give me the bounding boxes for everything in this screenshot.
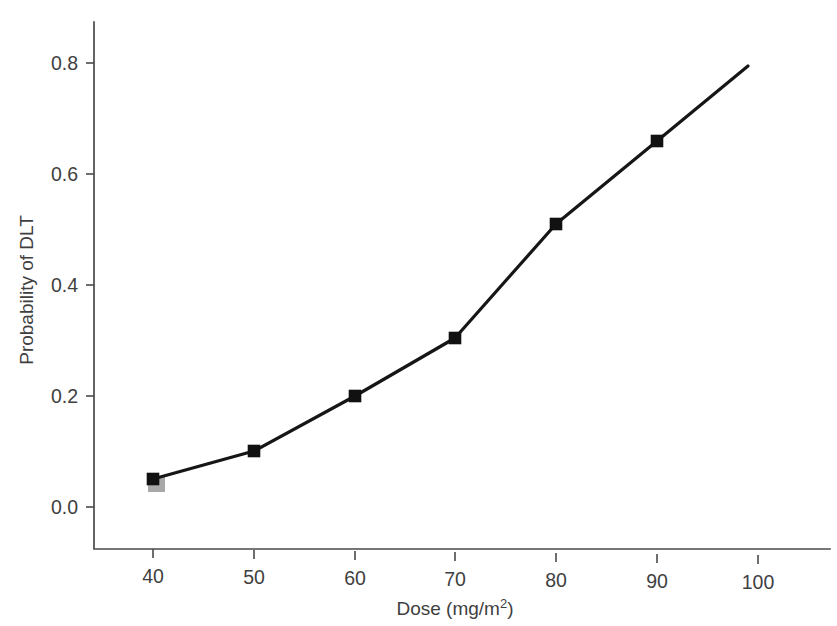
data-point-60 [349, 390, 361, 402]
y-axis-title: Probability of DLT [16, 215, 37, 365]
x-tick-label-0: 40 [142, 565, 164, 587]
data-point-70 [449, 332, 461, 344]
x-axis-title-tail: ) [507, 598, 513, 619]
x-tick-label-6: 100 [742, 571, 775, 593]
data-point-80 [550, 218, 562, 230]
x-tick-label-1: 50 [243, 566, 265, 588]
x-tick-label-2: 60 [344, 567, 366, 589]
y-tick-label-4: 0.8 [51, 52, 78, 74]
y-tick-label-3: 0.6 [51, 163, 78, 185]
chart-figure: 0.8 0.6 0.4 0.2 0.0 40 50 60 70 80 90 10… [0, 0, 837, 626]
x-tick-label-4: 80 [545, 569, 567, 591]
chart-background [0, 0, 837, 626]
line-chart-canvas: 0.8 0.6 0.4 0.2 0.0 40 50 60 70 80 90 10… [0, 0, 837, 626]
x-tick-label-5: 90 [646, 570, 668, 592]
y-tick-label-0: 0.0 [51, 496, 78, 518]
x-tick-label-3: 70 [444, 568, 466, 590]
x-axis-title-base: Dose (mg/m [396, 598, 499, 619]
x-axis-title: Dose (mg/m2) [396, 596, 513, 619]
data-point-40 [147, 473, 159, 485]
y-tick-label-2: 0.4 [51, 274, 78, 296]
data-point-50 [248, 445, 260, 457]
data-point-90 [651, 135, 663, 147]
y-tick-label-1: 0.2 [51, 385, 78, 407]
x-axis-title-superscript: 2 [500, 596, 507, 611]
